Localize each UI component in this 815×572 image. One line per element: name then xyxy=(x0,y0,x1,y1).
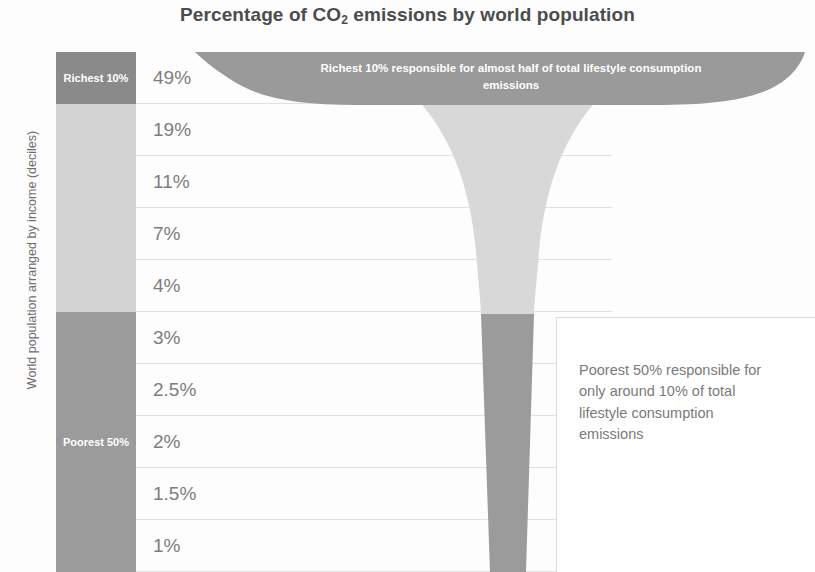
row-value: 1.5% xyxy=(153,483,196,505)
row-value: 2% xyxy=(153,431,180,453)
table-row: 7% xyxy=(136,208,612,260)
plot-area: Richest 10% Poorest 50% 49% 19% 11% 7% xyxy=(56,52,815,572)
band-poorest-label: Poorest 50% xyxy=(63,436,129,449)
page-title: Percentage of CO2 emissions by world pop… xyxy=(0,4,815,26)
table-row: 19% xyxy=(136,104,612,156)
title-prefix: Percentage of CO xyxy=(180,4,341,25)
callout-poorest: Poorest 50% responsible for only around … xyxy=(556,317,815,572)
band-richest-10: Richest 10% xyxy=(56,52,136,104)
callout-poorest-text: Poorest 50% responsible for only around … xyxy=(579,360,769,445)
table-row: 4% xyxy=(136,260,612,312)
row-value: 2.5% xyxy=(153,379,196,401)
table-row: 3% xyxy=(136,312,612,364)
table-row: 2.5% xyxy=(136,364,612,416)
row-value: 3% xyxy=(153,327,180,349)
y-axis-label: World population arranged by income (dec… xyxy=(25,25,39,495)
title-suffix: emissions by world population xyxy=(348,4,635,25)
row-value: 1% xyxy=(153,535,180,557)
row-value: 49% xyxy=(153,67,191,89)
table-row: 1.5% xyxy=(136,468,612,520)
table-row: 1% xyxy=(136,520,612,572)
table-row: 2% xyxy=(136,416,612,468)
table-row: 11% xyxy=(136,156,612,208)
chart-screen: Percentage of CO2 emissions by world pop… xyxy=(0,0,815,572)
row-value: 7% xyxy=(153,223,180,245)
row-value: 19% xyxy=(153,119,191,141)
row-value: 4% xyxy=(153,275,180,297)
annotation-richest: Richest 10% responsible for almost half … xyxy=(296,60,726,93)
title-subscript: 2 xyxy=(341,13,348,27)
band-poorest-50: Poorest 50% xyxy=(56,312,136,572)
row-value: 11% xyxy=(153,171,190,193)
band-richest-label: Richest 10% xyxy=(64,72,129,85)
band-middle-40 xyxy=(56,104,136,312)
